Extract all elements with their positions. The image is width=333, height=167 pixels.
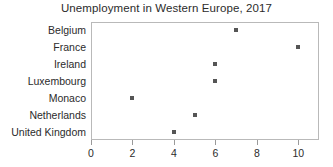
y-axis-label-netherlands: Netherlands bbox=[29, 109, 86, 121]
y-axis-label-luxembourg: Luxembourg bbox=[28, 75, 86, 87]
x-axis-tick-label: 4 bbox=[171, 147, 177, 159]
x-axis-tick-label: 6 bbox=[212, 147, 218, 159]
x-axis-tick-mark bbox=[298, 140, 299, 145]
x-axis-tick-mark bbox=[257, 140, 258, 145]
x-axis-tick-label: 2 bbox=[130, 147, 136, 159]
data-point-united-kingdom bbox=[172, 130, 176, 134]
y-axis-label-ireland: Ireland bbox=[54, 58, 86, 70]
plot-area bbox=[91, 22, 319, 140]
y-axis-label-united-kingdom: United Kingdom bbox=[11, 126, 86, 138]
x-axis-tick-label: 8 bbox=[254, 147, 260, 159]
data-point-netherlands bbox=[193, 113, 197, 117]
x-axis-tick-label: 10 bbox=[292, 147, 304, 159]
data-point-monaco bbox=[130, 96, 134, 100]
y-axis-category-labels: BelgiumFranceIrelandLuxembourgMonacoNeth… bbox=[0, 22, 86, 140]
x-axis-tick-mark bbox=[215, 140, 216, 145]
x-axis: 0246810 bbox=[91, 140, 319, 167]
data-point-belgium bbox=[234, 28, 238, 32]
chart-title: Unemployment in Western Europe, 2017 bbox=[0, 2, 333, 14]
x-axis-tick-mark bbox=[174, 140, 175, 145]
y-axis-label-france: France bbox=[53, 41, 86, 53]
x-axis-tick-mark bbox=[132, 140, 133, 145]
x-axis-tick-mark bbox=[91, 140, 92, 145]
y-axis-label-belgium: Belgium bbox=[48, 24, 86, 36]
data-point-france bbox=[296, 45, 300, 49]
data-point-luxembourg bbox=[213, 79, 217, 83]
scatter-chart: Unemployment in Western Europe, 2017 Bel… bbox=[0, 0, 333, 167]
y-axis-label-monaco: Monaco bbox=[49, 92, 86, 104]
x-axis-tick-label: 0 bbox=[88, 147, 94, 159]
data-point-ireland bbox=[213, 62, 217, 66]
